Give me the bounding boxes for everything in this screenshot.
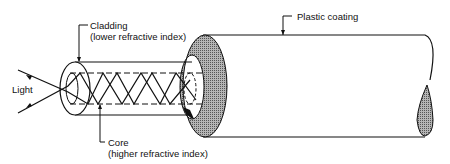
plastic-coating-label: Plastic coating xyxy=(297,11,358,22)
plastic-coating xyxy=(180,35,433,137)
core-label: Core (higher refractive index) xyxy=(108,137,208,159)
cladding-label: Cladding (lower refractive index) xyxy=(90,20,186,42)
cladding-label-line1: Cladding xyxy=(90,20,186,31)
light-rays xyxy=(18,70,196,113)
fiber-diagram xyxy=(0,0,450,164)
core-label-line1: Core xyxy=(108,137,208,148)
cladding-label-line2: (lower refractive index) xyxy=(90,31,186,42)
light-label: Light xyxy=(12,84,33,95)
core-label-line2: (higher refractive index) xyxy=(108,148,208,159)
